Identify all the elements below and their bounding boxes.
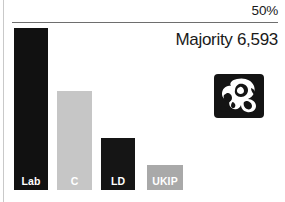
bar-label-ukip: UKIP [147, 175, 183, 187]
labour-rose-icon [213, 73, 265, 119]
bar-label-lab: Lab [14, 175, 48, 187]
bar-c[interactable]: C [57, 91, 92, 190]
bar-label-c: C [57, 175, 92, 187]
bar-label-ld: LD [101, 175, 135, 187]
bar-lab[interactable]: Lab [14, 28, 48, 190]
election-bar-chart: 50% Majority 6,593 Lab C LD UKIP [0, 0, 285, 202]
bar-ld[interactable]: LD [101, 138, 135, 190]
bar-ukip[interactable]: UKIP [147, 165, 183, 190]
